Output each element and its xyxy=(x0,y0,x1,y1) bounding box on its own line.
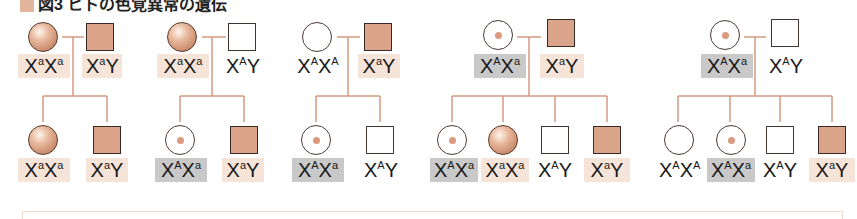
genotype-label: XaXa xyxy=(18,158,70,182)
genotype-label: XaY xyxy=(540,54,584,78)
carrier-female-icon xyxy=(483,20,513,50)
affected-male-icon xyxy=(93,126,121,154)
carrier-female-icon xyxy=(437,125,467,155)
affected-female-icon xyxy=(28,125,58,155)
normal-male-icon xyxy=(228,23,256,51)
carrier-female-icon xyxy=(716,125,746,155)
genotype-label: XAY xyxy=(222,54,264,78)
genotype-label: XaY xyxy=(584,158,630,182)
affected-male-icon xyxy=(364,23,392,51)
normal-male-icon xyxy=(541,126,569,154)
carrier-female-icon xyxy=(301,125,331,155)
genotype-label: XaXa xyxy=(481,158,529,182)
affected-female-icon xyxy=(28,22,58,52)
normal-female-icon xyxy=(664,125,694,155)
normal-male-icon xyxy=(766,126,794,154)
genotype-label: XAXa xyxy=(707,158,755,182)
affected-male-icon xyxy=(230,126,258,154)
genotype-label: XAXa xyxy=(701,54,753,78)
genotype-label: XaXa xyxy=(157,54,209,78)
genotype-label: XAY xyxy=(360,158,402,182)
genotype-label: XAY xyxy=(534,158,576,182)
genotype-label: XaXa xyxy=(18,54,70,78)
genotype-label: XaY xyxy=(222,158,264,182)
carrier-female-icon xyxy=(165,125,195,155)
affected-male-icon xyxy=(818,126,846,154)
affected-female-icon xyxy=(167,22,197,52)
genotype-label: XAY xyxy=(759,158,801,182)
genotype-label: XAXa xyxy=(474,54,526,78)
affected-male-icon xyxy=(547,19,575,47)
normal-male-icon xyxy=(771,19,799,47)
normal-male-icon xyxy=(366,126,394,154)
genotype-label: XaY xyxy=(82,54,122,78)
genotype-label: XAXa xyxy=(430,158,478,182)
genotype-label: XAY xyxy=(764,54,808,78)
caption-box xyxy=(22,211,843,219)
carrier-female-icon xyxy=(710,20,740,50)
normal-female-icon xyxy=(302,22,332,52)
affected-male-icon xyxy=(86,23,114,51)
affected-female-icon xyxy=(488,125,518,155)
genotype-label: XaY xyxy=(358,54,400,78)
genotype-label: XAXA xyxy=(292,54,344,78)
genotype-label: XaY xyxy=(809,158,855,182)
genotype-label: XaY xyxy=(86,158,128,182)
genotype-label: XAXA xyxy=(655,158,703,182)
affected-male-icon xyxy=(593,126,621,154)
genotype-label: XAXa xyxy=(155,158,207,182)
genotype-label: XAXa xyxy=(292,158,344,182)
